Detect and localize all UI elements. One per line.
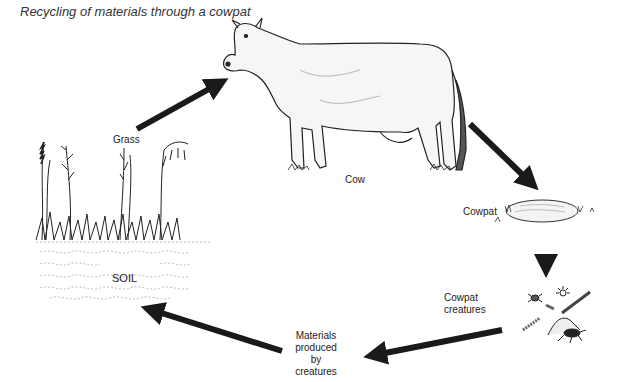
soil-illustration: [36, 242, 210, 299]
label-materials-line3: by: [286, 354, 346, 366]
label-soil: SOIL: [112, 272, 137, 284]
label-materials-line2: produced: [286, 342, 346, 354]
label-cowpat-creatures-line1: Cowpat: [444, 292, 486, 304]
label-materials-line1: Materials: [286, 330, 346, 342]
label-cowpat-creatures: Cowpat creatures: [444, 292, 486, 316]
arrow-creatures-to-materials: [375, 330, 502, 355]
cow-illustration: [224, 18, 466, 170]
label-grass: Grass: [113, 134, 140, 146]
cowpat-creatures-illustration: [523, 286, 590, 343]
label-cowpat-creatures-line2: creatures: [444, 304, 486, 316]
arrow-cow-to-cowpat: [470, 124, 530, 182]
label-materials: Materials produced by creatures: [286, 330, 346, 378]
label-cow: Cow: [345, 174, 365, 186]
arrow-grass-to-cow: [137, 84, 218, 129]
diagram-canvas: [0, 0, 627, 382]
cowpat-illustration: [495, 200, 594, 222]
arrow-materials-to-soil: [152, 310, 282, 351]
label-cowpat: Cowpat: [463, 206, 497, 218]
label-materials-line4: creatures: [286, 366, 346, 378]
grass-illustration: [36, 142, 188, 240]
